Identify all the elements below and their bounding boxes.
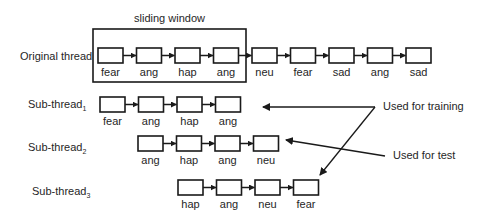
emotion-label: hap [178,66,196,78]
row-label: Sub-thread3 [32,185,90,199]
utterance-box [291,48,316,63]
training-arrows [263,107,375,175]
thread-row-sub3: Sub-thread3 hapangneufear [32,180,319,210]
utterance-box [177,97,202,112]
emotion-label: fear [101,66,120,78]
emotion-label: sad [410,66,428,78]
utterance-box [178,180,203,195]
annotation-test: Used for test [286,140,455,161]
emotion-label: ang [220,198,238,210]
emotion-label: fear [294,66,313,78]
emotion-chain: fearanghapang [100,97,241,127]
sliding-window-title: sliding window [134,12,205,24]
emotion-label: ang [141,154,159,166]
emotion-label: ang [219,115,237,127]
utterance-box [137,48,162,63]
thread-row-sub2: Sub-thread2 anghapangneu [28,136,279,166]
sliding-window-diagram: sliding window Original thread fearangha… [0,0,477,221]
utterance-box [254,136,279,151]
utterance-box [138,136,163,151]
utterance-box [406,48,431,63]
utterance-box [216,97,241,112]
emotion-label: ang [371,66,389,78]
utterance-box [217,180,242,195]
utterance-box [329,48,354,63]
emotion-label: hap [180,154,198,166]
utterance-box [98,48,123,63]
utterance-box [368,48,393,63]
emotion-label: hap [181,198,199,210]
emotion-label: ang [142,115,160,127]
utterance-box [214,48,239,63]
pointer-arrow [320,107,375,175]
emotion-label: neu [255,66,273,78]
emotion-label: neu [258,198,276,210]
emotion-label: fear [297,198,316,210]
emotion-chain: anghapangneu [138,136,279,166]
utterance-box [177,136,202,151]
emotion-label: ang [217,66,235,78]
emotion-chain: hapangneufear [178,180,319,210]
annotation-training: Used for training [263,100,464,175]
row-label: Sub-thread1 [28,98,86,112]
utterance-box [252,48,277,63]
row-label: Sub-thread2 [28,141,86,155]
training-note: Used for training [383,100,464,112]
utterance-box [255,180,280,195]
emotion-label: neu [257,154,275,166]
thread-row-original: Original thread fearanghapangneufearsada… [20,48,431,78]
utterance-box [294,180,319,195]
utterance-box [139,97,164,112]
emotion-label: hap [180,115,198,127]
test-note: Used for test [393,149,455,161]
utterance-box [215,136,240,151]
diagram-canvas: sliding window Original thread fearangha… [0,0,477,221]
emotion-label: ang [140,66,158,78]
pointer-arrow [286,140,385,156]
emotion-chain: fearanghapangneufearsadangsad [98,48,431,78]
utterance-box [100,97,125,112]
thread-row-sub1: Sub-thread1 fearanghapang [28,97,241,127]
test-arrow [286,140,385,156]
emotion-label: fear [103,115,122,127]
row-label: Original thread [20,50,92,62]
emotion-label: sad [333,66,351,78]
utterance-box [175,48,200,63]
emotion-label: ang [218,154,236,166]
